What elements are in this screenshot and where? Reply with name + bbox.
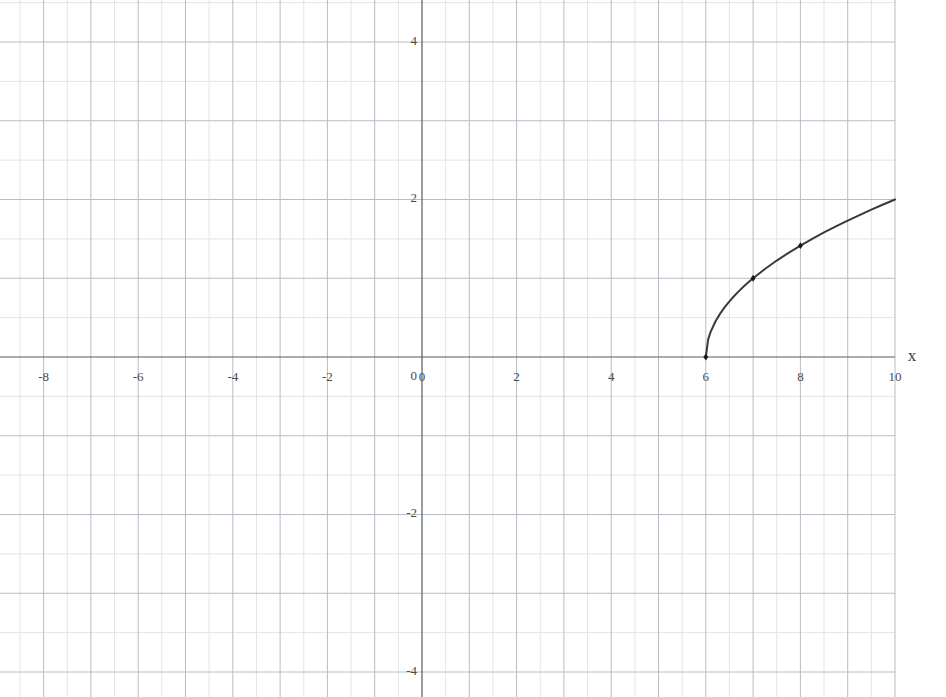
y-tick-label: 4 xyxy=(411,33,418,48)
chart-background xyxy=(0,0,946,697)
y-tick-label: -2 xyxy=(406,505,417,520)
y-tick-label: 2 xyxy=(411,190,418,205)
x-tick-label: -4 xyxy=(227,369,238,384)
x-tick-label: 0 xyxy=(419,369,426,384)
y-tick-label: -4 xyxy=(406,663,417,678)
graph-page: -10-8-6-4-20246810 -4-2024 x xyxy=(0,0,946,697)
x-tick-label: -6 xyxy=(133,369,144,384)
x-tick-label: 4 xyxy=(608,369,615,384)
x-tick-label: 10 xyxy=(889,369,902,384)
y-tick-label: 0 xyxy=(411,368,418,383)
coordinate-plane-chart: -10-8-6-4-20246810 -4-2024 x xyxy=(0,0,946,697)
x-tick-label: 2 xyxy=(513,369,520,384)
x-axis-label: x xyxy=(908,346,917,365)
x-tick-label: 8 xyxy=(797,369,804,384)
x-tick-label: 6 xyxy=(703,369,710,384)
x-tick-label: -2 xyxy=(322,369,333,384)
x-tick-label: -8 xyxy=(38,369,49,384)
